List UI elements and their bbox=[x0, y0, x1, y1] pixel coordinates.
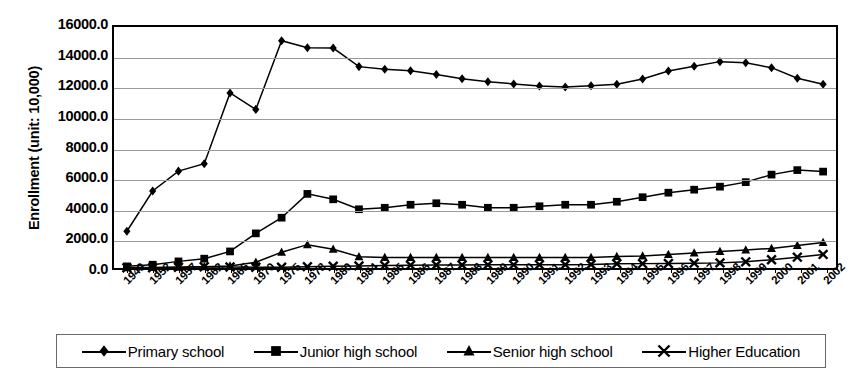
y-tick-label: 14000.0 bbox=[22, 48, 108, 63]
legend-item-junior-high-school[interactable]: Junior high school bbox=[254, 343, 417, 360]
gridline bbox=[114, 58, 836, 59]
y-tick-label: 10000.0 bbox=[22, 109, 108, 124]
gridline bbox=[114, 241, 836, 242]
x-axis-tick-labels: 1949195219571962196519701975197819801984… bbox=[112, 272, 838, 332]
plot-area bbox=[112, 25, 838, 270]
y-tick-label: 6000.0 bbox=[22, 170, 108, 185]
square-icon bbox=[254, 343, 298, 359]
y-tick-label: 8000.0 bbox=[22, 140, 108, 155]
diamond-icon bbox=[82, 343, 126, 359]
y-tick-label: 0.0 bbox=[22, 262, 108, 277]
enrollment-line-chart: Enrollment (unit: 10,000) 16000.014000.0… bbox=[0, 0, 852, 380]
legend-item-primary-school[interactable]: Primary school bbox=[82, 343, 224, 360]
gridline bbox=[114, 119, 836, 120]
chart-legend: Primary schoolJunior high schoolSenior h… bbox=[56, 334, 826, 368]
y-tick-label: 2000.0 bbox=[22, 231, 108, 246]
legend-label: Higher Education bbox=[686, 343, 800, 360]
y-tick-label: 16000.0 bbox=[22, 17, 108, 32]
gridline bbox=[114, 211, 836, 212]
gridline bbox=[114, 180, 836, 181]
legend-label: Junior high school bbox=[298, 343, 417, 360]
legend-label: Primary school bbox=[126, 343, 224, 360]
y-axis-tick-labels: 16000.014000.012000.010000.08000.06000.0… bbox=[20, 0, 108, 380]
gridline bbox=[114, 150, 836, 151]
cross-icon bbox=[642, 343, 686, 359]
legend-label: Senior high school bbox=[491, 343, 613, 360]
legend-item-senior-high-school[interactable]: Senior high school bbox=[447, 343, 613, 360]
triangle-icon bbox=[447, 343, 491, 359]
y-tick-label: 12000.0 bbox=[22, 78, 108, 93]
gridline bbox=[114, 88, 836, 89]
y-tick-label: 4000.0 bbox=[22, 201, 108, 216]
series-canvas bbox=[114, 27, 836, 268]
legend-item-higher-education[interactable]: Higher Education bbox=[642, 343, 800, 360]
